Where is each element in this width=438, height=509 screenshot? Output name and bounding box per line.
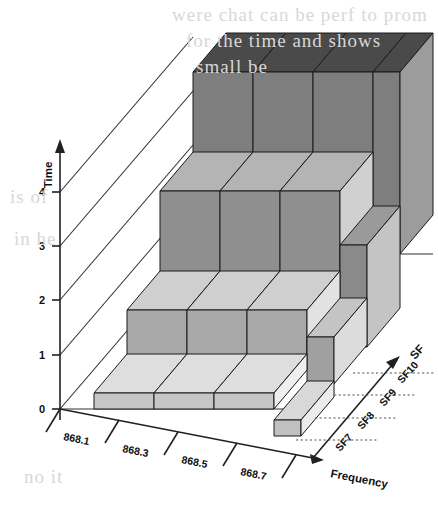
x-tick-label-868.5: 868.5 xyxy=(181,453,209,470)
bar-group-sf7 xyxy=(94,354,334,436)
y-tick-label-0: 0 xyxy=(39,403,45,415)
x-tick-0 xyxy=(46,409,60,432)
x-tick-4 xyxy=(282,455,296,478)
bar-sf8-868.3-front xyxy=(187,310,247,357)
x-tick-label-868.3: 868.3 xyxy=(122,442,150,459)
x-tick-1 xyxy=(105,420,119,443)
x-tick-label-868.7: 868.7 xyxy=(240,465,268,482)
background-text-line-1: were chat can be perf to prom xyxy=(172,4,428,26)
y-tick-label-1: 1 xyxy=(39,349,45,361)
background-text-line-2: for the time and shows xyxy=(186,30,381,52)
background-text-line-6: no it xyxy=(24,466,63,488)
y-axis: 4 3 2 1 0 Time xyxy=(39,139,65,420)
z-axis-arrow xyxy=(386,356,400,369)
y-axis-title: Time xyxy=(42,162,54,189)
x-tick-label-868.1: 868.1 xyxy=(63,430,91,447)
background-text-line-4: is of xyxy=(10,186,48,208)
bar-sf8-868.1-front xyxy=(127,310,187,357)
bar-sf7-868.7-front xyxy=(274,420,301,436)
y-axis-arrow xyxy=(55,139,65,153)
background-text-line-5: in he xyxy=(14,228,56,250)
background-text-line-3: small be xyxy=(196,56,268,78)
bar-sf7-868.3-front xyxy=(154,393,214,409)
x-tick-3 xyxy=(223,443,237,466)
z-tick-label-sf8: SF8 xyxy=(355,409,377,431)
z-tick-label-sf7: SF7 xyxy=(333,431,355,453)
bar-sf7-868.5-front xyxy=(214,393,274,409)
chart-root: were chat can be perf to prom for the ti… xyxy=(0,0,438,509)
x-tick-2 xyxy=(164,432,178,455)
bar-sf8-868.5-front xyxy=(247,310,307,357)
x-axis-arrow xyxy=(310,454,324,464)
bar-sf10-868.7-side xyxy=(400,33,433,254)
bar-sf8-868.7-front xyxy=(307,337,334,384)
bar-sf7-868.1-front xyxy=(94,393,154,409)
z-tick-label-sf10: SF10 xyxy=(395,359,421,386)
z-tick-label-sf9: SF9 xyxy=(377,386,399,408)
x-axis-title: Frequency xyxy=(330,467,390,490)
y-tick-label-2: 2 xyxy=(39,294,45,306)
